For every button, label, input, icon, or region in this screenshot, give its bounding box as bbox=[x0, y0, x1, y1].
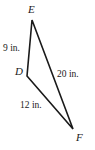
side-label-de: 9 in. bbox=[3, 44, 20, 54]
vertex-label-d: D bbox=[15, 66, 23, 77]
vertex-label-e: E bbox=[28, 4, 35, 15]
vertex-label-f: F bbox=[76, 132, 83, 143]
geometry-diagram-triangle-def: E D F 9 in. 20 in. 12 in. bbox=[0, 0, 95, 150]
side-label-ef: 20 in. bbox=[57, 70, 79, 80]
side-label-df: 12 in. bbox=[20, 101, 42, 111]
